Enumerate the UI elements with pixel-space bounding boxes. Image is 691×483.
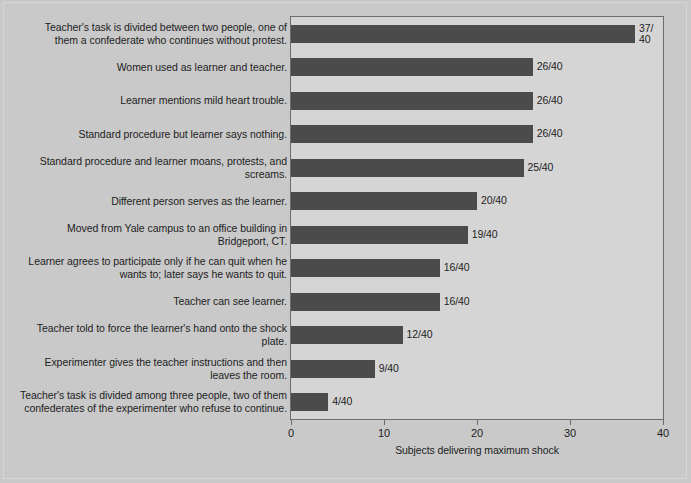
bar: [291, 393, 328, 411]
bar-value-label: 16/40: [444, 296, 470, 307]
x-axis-tick-label: 20: [457, 427, 497, 439]
category-label: Teacher's task is divided between two pe…: [19, 21, 287, 47]
figure: Teacher's task is divided between two pe…: [0, 0, 691, 483]
x-axis-tick: [291, 420, 292, 425]
bar: [291, 293, 440, 311]
bar: [291, 159, 524, 177]
x-axis-tick: [570, 420, 571, 425]
bar-value-label: 25/40: [528, 162, 554, 173]
category-label: Teacher can see learner.: [19, 295, 287, 308]
x-axis-title: Subjects delivering maximum shock: [290, 444, 664, 456]
bar: [291, 360, 375, 378]
x-axis-tick-label: 40: [643, 427, 683, 439]
plot-inner-area: [291, 17, 663, 419]
bar: [291, 58, 533, 76]
bar: [291, 192, 477, 210]
bar-value-label: 20/40: [481, 195, 507, 206]
bar-value-label: 26/40: [537, 61, 563, 72]
bar: [291, 326, 403, 344]
bar-value-label: 37/ 40: [639, 23, 653, 45]
category-label: Learner agrees to participate only if he…: [19, 255, 287, 281]
category-label: Standard procedure but learner says noth…: [19, 128, 287, 141]
x-axis-tick-label: 10: [364, 427, 404, 439]
category-label: Women used as learner and teacher.: [19, 61, 287, 74]
bar-value-label: 9/40: [379, 363, 399, 374]
bar-chart: Teacher's task is divided between two pe…: [0, 0, 691, 483]
x-axis-tick: [477, 420, 478, 425]
bar: [291, 226, 468, 244]
category-label: Experimenter gives the teacher instructi…: [19, 356, 287, 382]
bar-value-label: 12/40: [407, 329, 433, 340]
x-axis-tick: [384, 420, 385, 425]
category-label: Standard procedure and learner moans, pr…: [19, 155, 287, 181]
category-label: Learner mentions mild heart trouble.: [19, 94, 287, 107]
bar: [291, 125, 533, 143]
bar-value-label: 19/40: [472, 229, 498, 240]
category-label: Moved from Yale campus to an office buil…: [19, 222, 287, 248]
x-axis-tick-label: 0: [271, 427, 311, 439]
category-label: Teacher's task is divided among three pe…: [19, 389, 287, 415]
bar-value-label: 4/40: [332, 396, 352, 407]
x-axis-tick: [663, 420, 664, 425]
category-label: Teacher told to force the learner's hand…: [19, 322, 287, 348]
bar-value-label: 26/40: [537, 128, 563, 139]
category-label: Different person serves as the learner.: [19, 195, 287, 208]
bar: [291, 92, 533, 110]
bar-value-label: 16/40: [444, 262, 470, 273]
bar-value-label: 26/40: [537, 95, 563, 106]
x-axis-tick-label: 30: [550, 427, 590, 439]
bar: [291, 25, 635, 43]
bar: [291, 259, 440, 277]
